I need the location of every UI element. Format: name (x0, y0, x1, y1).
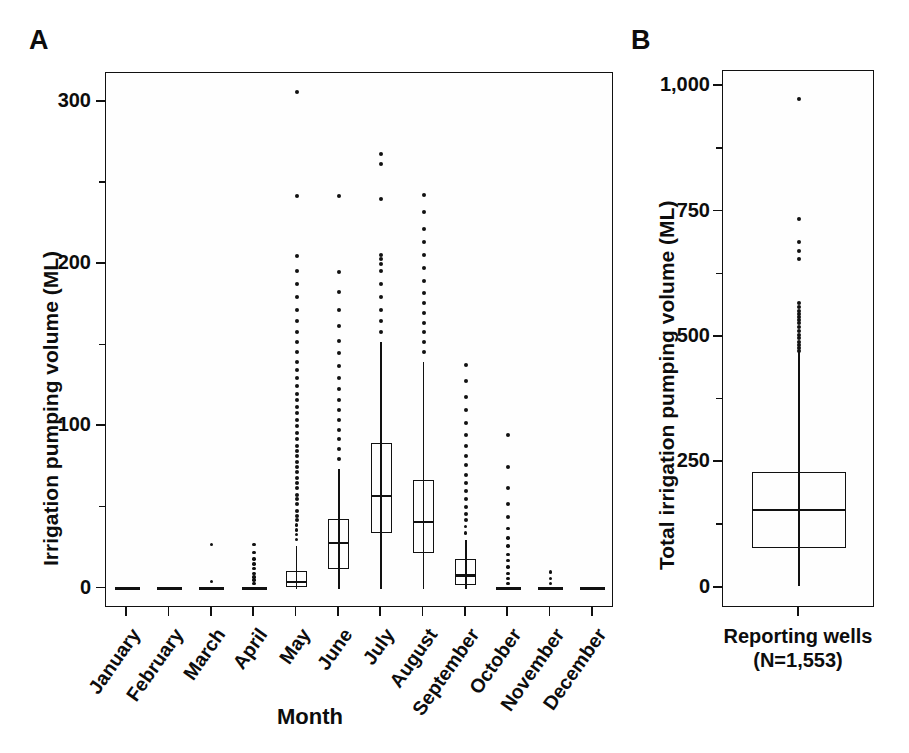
outlier-point (797, 257, 801, 261)
outlier-point (549, 582, 552, 585)
outlier-point (464, 454, 468, 458)
panel-a-letter: A (29, 27, 49, 54)
outlier-point (422, 321, 426, 325)
outlier-point (506, 544, 509, 547)
outlier-point (295, 350, 299, 354)
x-tick (422, 607, 424, 616)
outlier-point (422, 301, 426, 305)
panel-b-category-line1: Reporting wells (700, 625, 896, 649)
figure-root: A Irrigation pumping volume (ML) 0100200… (0, 0, 909, 753)
outlier-point (464, 363, 468, 367)
box-zero-rule (115, 587, 140, 589)
outlier-point (337, 387, 341, 391)
x-tick (337, 607, 339, 616)
x-tick (295, 607, 297, 616)
outlier-point (464, 531, 467, 534)
outlier-point (295, 340, 299, 344)
outlier-point (295, 476, 299, 480)
outlier-point (337, 437, 341, 441)
median (286, 581, 307, 583)
outlier-point (797, 340, 801, 344)
y-tick (713, 84, 722, 86)
whisker (798, 352, 800, 586)
x-tick (125, 607, 127, 616)
median (455, 574, 476, 576)
y-tick-minor (716, 273, 722, 275)
outlier-point (210, 543, 213, 546)
outlier-point (252, 578, 255, 581)
x-tick (591, 607, 593, 616)
outlier-point (422, 266, 426, 270)
outlier-point (295, 437, 299, 441)
outlier-point (797, 301, 801, 305)
x-tick (252, 607, 254, 616)
outlier-point (210, 580, 213, 583)
outlier-point (295, 431, 299, 435)
outlier-point (252, 551, 255, 554)
outlier-point (379, 162, 383, 166)
outlier-point (379, 282, 383, 286)
outlier-point (379, 197, 383, 201)
outlier-point (464, 444, 468, 448)
outlier-point (337, 408, 341, 412)
outlier-point (295, 418, 299, 422)
outlier-point (464, 379, 468, 383)
outlier-point (252, 575, 255, 578)
outlier-point (337, 324, 341, 328)
outlier-point (379, 319, 383, 323)
outlier-point (464, 421, 468, 425)
outlier-point (506, 536, 509, 539)
outlier-point (295, 90, 299, 94)
outlier-point (295, 295, 299, 299)
x-tick (549, 607, 551, 616)
outlier-point (464, 395, 468, 399)
y-tick (96, 100, 105, 102)
outlier-point (337, 376, 341, 380)
outlier-point (422, 330, 426, 334)
outlier-point (379, 269, 383, 273)
box (413, 480, 434, 553)
median (752, 509, 846, 511)
outlier-point (337, 428, 341, 432)
outlier-point (549, 570, 552, 573)
outlier-point (379, 295, 383, 299)
y-tick-label: 1,000 (610, 74, 710, 94)
outlier-point (464, 408, 468, 412)
panel-b-plot-area (722, 70, 874, 607)
x-tick (797, 607, 799, 616)
outlier-point (295, 454, 299, 458)
outlier-point (295, 528, 298, 531)
outlier-point (295, 405, 299, 409)
outlier-point (295, 360, 299, 364)
outlier-point (506, 515, 510, 519)
x-tick (379, 607, 381, 616)
y-tick (713, 460, 722, 462)
outlier-point (252, 582, 255, 585)
outlier-point (797, 329, 801, 333)
outlier-point (422, 291, 426, 295)
box-zero-rule (199, 587, 224, 589)
box-zero-rule (157, 587, 182, 589)
outlier-point (506, 565, 509, 568)
box (455, 559, 476, 585)
panel-a-plot-area (105, 72, 613, 607)
y-tick-minor (716, 147, 722, 149)
outlier-point (295, 509, 299, 513)
outlier-point (506, 502, 510, 506)
outlier-point (295, 319, 299, 323)
x-tick (464, 607, 466, 616)
outlier-point (464, 433, 468, 437)
y-tick-label: 0 (610, 576, 710, 596)
outlier-point (295, 330, 299, 334)
box-zero-rule (580, 587, 605, 589)
y-tick-label: 200 (20, 252, 91, 272)
y-tick (96, 424, 105, 426)
outlier-point (295, 384, 299, 388)
x-tick (168, 607, 170, 616)
outlier-point (337, 270, 341, 274)
outlier-point (464, 518, 468, 522)
outlier-point (337, 308, 341, 312)
x-tick (210, 607, 212, 616)
y-tick-minor (716, 523, 722, 525)
outlier-point (506, 553, 509, 556)
